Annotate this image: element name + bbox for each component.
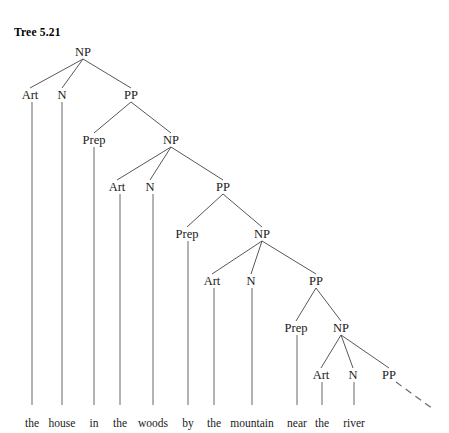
tree-node-np1: NP	[75, 46, 91, 59]
tree-branch	[316, 288, 341, 321]
terminal-word: in	[90, 418, 99, 430]
tree-branch	[251, 241, 262, 274]
tree-branch	[296, 288, 316, 321]
tree-node-n3: N	[246, 275, 255, 288]
tree-branch	[94, 102, 131, 133]
tree-branch	[212, 241, 262, 274]
tree-node-art4: Art	[313, 369, 330, 382]
figure-caption: Tree 5.21	[14, 26, 61, 38]
tree-node-art2: Art	[109, 181, 126, 194]
tree-node-np2: NP	[163, 134, 179, 147]
terminal-word: woods	[138, 418, 168, 430]
tree-branch	[30, 59, 83, 88]
tree-branch	[223, 194, 262, 227]
tree-branch	[62, 59, 83, 88]
terminal-word: the	[25, 418, 39, 430]
syntax-tree-figure: Tree 5.21 NPArtNPPPrepNPArtNPPPrepNPArtN…	[0, 0, 449, 433]
tree-branch	[83, 59, 131, 88]
terminal-word: the	[315, 418, 329, 430]
terminal-word: mountain	[230, 418, 273, 430]
tree-node-np3: NP	[254, 228, 270, 241]
tree-node-pp2: PP	[216, 181, 230, 194]
terminal-word: house	[49, 418, 76, 430]
tree-branch	[321, 335, 341, 368]
tree-branch	[341, 335, 353, 368]
tree-node-art1: Art	[22, 89, 39, 102]
terminal-word: the	[207, 418, 221, 430]
recursion-dashed-edge	[396, 382, 433, 409]
terminal-word: the	[113, 418, 127, 430]
terminal-word: near	[287, 418, 307, 430]
terminal-word: river	[343, 418, 365, 430]
tree-node-n4: N	[348, 369, 357, 382]
tree-branch	[187, 194, 223, 227]
tree-node-n1: N	[57, 89, 66, 102]
tree-branch	[131, 102, 171, 133]
tree-branch	[262, 241, 316, 274]
tree-node-pp3: PP	[309, 275, 323, 288]
tree-branch	[341, 335, 389, 368]
tree-branch	[117, 147, 171, 180]
tree-branch	[171, 147, 223, 180]
tree-node-pp1: PP	[124, 89, 138, 102]
tree-node-prep1: Prep	[83, 134, 106, 147]
terminal-word: by	[182, 418, 194, 430]
tree-node-n2: N	[145, 181, 154, 194]
tree-node-prep3: Prep	[285, 322, 308, 335]
tree-node-pp4: PP	[382, 369, 396, 382]
tree-branch	[150, 147, 171, 180]
figure-page: Tree 5.21 NPArtNPPPrepNPArtNPPPrepNPArtN…	[0, 0, 449, 433]
tree-node-art3: Art	[204, 275, 221, 288]
tree-node-np4: NP	[333, 322, 349, 335]
tree-node-prep2: Prep	[176, 228, 199, 241]
